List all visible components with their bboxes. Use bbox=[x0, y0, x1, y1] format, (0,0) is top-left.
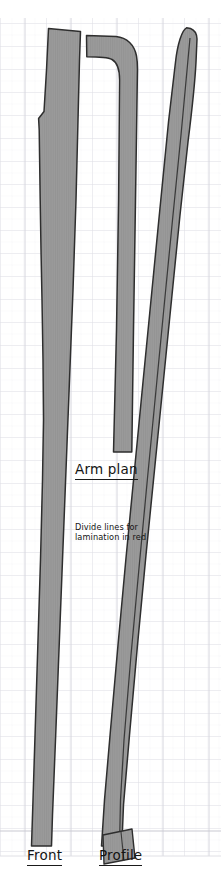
profile-foot-block-outline bbox=[103, 829, 135, 864]
front-limb-outline bbox=[32, 29, 81, 847]
part-arm-plan[interactable] bbox=[87, 36, 138, 453]
part-front-limb[interactable] bbox=[32, 29, 81, 847]
drawing-sheet: Arm plan Divide lines for lamination in … bbox=[0, 0, 221, 875]
parts-drawing bbox=[0, 0, 221, 875]
part-profile-foot-block[interactable] bbox=[103, 829, 135, 864]
arm-plan-outline bbox=[87, 36, 138, 453]
